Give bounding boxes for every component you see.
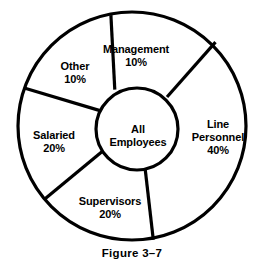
pie-center-label-line2: Employees — [100, 136, 176, 149]
slice-name-salaried: Salaried — [33, 129, 75, 141]
pie-center-label-line1: All — [131, 123, 145, 135]
slice-label-other: Other 10% — [42, 47, 108, 99]
figure-caption: Figure 3–7 — [62, 247, 202, 261]
slice-label-salaried: Salaried 20% — [16, 116, 92, 168]
slice-name-line-personnel: Line Personnel — [192, 118, 244, 143]
slice-name-other: Other — [61, 60, 90, 72]
slice-value-line-personnel: 40% — [182, 144, 254, 157]
slice-value-other: 10% — [42, 73, 108, 86]
slice-name-management: Management — [103, 43, 169, 55]
slice-value-supervisors: 20% — [64, 208, 156, 221]
slice-label-supervisors: Supervisors 20% — [64, 182, 156, 234]
slice-label-line-personnel: Line Personnel 40% — [182, 105, 254, 170]
slice-value-salaried: 20% — [16, 142, 92, 155]
pie-center-label: All Employees — [100, 110, 176, 162]
slice-name-supervisors: Supervisors — [79, 195, 141, 207]
figure-container: Management 10% Line Personnel 40% Superv… — [0, 0, 264, 271]
